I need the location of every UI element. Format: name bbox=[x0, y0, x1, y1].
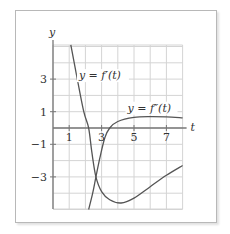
annotation-f-prime: y = f′(t) bbox=[78, 69, 121, 82]
y-tick-label: 1 bbox=[40, 106, 47, 119]
annotation-f-double-prime: y = f″(t) bbox=[127, 102, 172, 115]
y-tick-label: 3 bbox=[40, 73, 47, 86]
chart-plot: 135731−1−3yty = f′(t)y = f″(t) bbox=[0, 0, 230, 234]
y-tick-label: −3 bbox=[31, 171, 47, 184]
x-tick-label: 3 bbox=[98, 131, 105, 144]
x-axis-label: t bbox=[191, 121, 196, 134]
x-tick-label: 7 bbox=[163, 131, 170, 144]
x-tick-label: 1 bbox=[66, 131, 73, 144]
y-axis-label: y bbox=[48, 26, 56, 39]
x-tick-label: 5 bbox=[131, 131, 138, 144]
y-tick-label: −1 bbox=[31, 138, 47, 151]
